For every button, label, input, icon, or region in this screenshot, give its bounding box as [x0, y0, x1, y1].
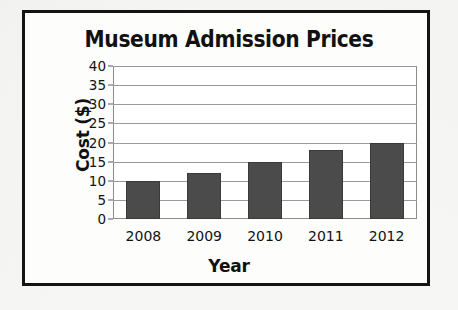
- x-tick-label: 2011: [295, 228, 356, 244]
- bar[interactable]: [370, 143, 404, 220]
- bar[interactable]: [248, 162, 282, 219]
- y-tick-label: 15: [89, 154, 106, 170]
- bar-group: 2009: [174, 66, 235, 219]
- x-tick-label: 2010: [235, 228, 296, 244]
- chart-frame: Museum Admission Prices Cost ($) 0510152…: [22, 10, 430, 286]
- y-tick-label: 0: [97, 211, 106, 227]
- bar-series: 20082009201020112012: [113, 66, 417, 219]
- x-tick-label: 2008: [113, 228, 174, 244]
- bar-group: 2012: [356, 66, 417, 219]
- bar-group: 2011: [295, 66, 356, 219]
- chart-title: Museum Admission Prices: [49, 26, 408, 52]
- bar-group: 2010: [235, 66, 296, 219]
- chart-page: Museum Admission Prices Cost ($) 0510152…: [0, 0, 458, 310]
- y-tick-label: 20: [89, 135, 106, 151]
- bar[interactable]: [309, 150, 343, 219]
- bar-group: 2008: [113, 66, 174, 219]
- y-tick-label: 30: [89, 96, 106, 112]
- y-tick-label: 5: [97, 192, 106, 208]
- x-axis-title: Year: [25, 256, 433, 276]
- plot-wrapper: 0510152025303540 20082009201020112012: [113, 66, 417, 219]
- x-tick-label: 2012: [356, 228, 417, 244]
- y-tick-label: 40: [89, 58, 106, 74]
- bar[interactable]: [126, 181, 160, 219]
- y-tick-label: 10: [89, 173, 106, 189]
- y-tick-label: 35: [89, 77, 106, 93]
- y-tick-label: 25: [89, 115, 106, 131]
- bar[interactable]: [187, 173, 221, 219]
- x-tick-label: 2009: [174, 228, 235, 244]
